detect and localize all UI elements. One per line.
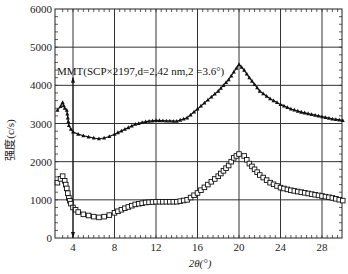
y-tick-label: 6000 [30, 3, 53, 15]
grid-lines [55, 9, 342, 238]
data-point-square [102, 214, 107, 219]
y-axis-tick-labels: 0100020003000400050006000 [30, 3, 53, 244]
data-point-square [86, 213, 91, 218]
arrow-head-up-icon [71, 77, 75, 83]
data-point-triangle [66, 119, 70, 123]
x-tick-label: 24 [275, 241, 287, 253]
x-axis-title: 2θ(°) [189, 257, 212, 270]
data-point-square [237, 152, 242, 157]
data-point-square [66, 191, 71, 196]
data-point-square [91, 214, 96, 219]
data-point-triangle [61, 100, 65, 104]
x-tick-label: 16 [192, 241, 204, 253]
x-tick-label: 8 [112, 241, 118, 253]
data-point-square [107, 213, 112, 218]
y-tick-label: 3000 [30, 118, 53, 130]
data-point-triangle [65, 112, 69, 116]
data-point-triangle [66, 116, 70, 120]
y-axis-title: 强度(c/s) [3, 119, 17, 161]
y-tick-label: 5000 [30, 41, 53, 53]
y-tick-label: 1000 [30, 194, 53, 206]
y-tick-label: 4000 [30, 79, 53, 91]
arrow-head-down-icon [71, 232, 75, 238]
x-axis-tick-labels: 481216202428 [70, 241, 328, 253]
x-tick-label: 20 [234, 241, 246, 253]
data-point-square [81, 212, 86, 217]
x-tick-label: 28 [317, 241, 329, 253]
x-tick-label: 12 [151, 241, 162, 253]
data-point-square [97, 215, 102, 220]
data-point-square [60, 174, 65, 179]
y-tick-label: 2000 [30, 156, 53, 168]
data-point-square [64, 186, 69, 191]
data-point-square [340, 198, 345, 203]
data-point-triangle [237, 62, 241, 66]
annotation-label: MMT(SCP×2197,d=2,42 nm,2 =3.6°) [57, 65, 225, 78]
xrd-chart: MMT(SCP×2197,d=2,42 nm,2 =3.6°) 01000200… [0, 0, 348, 274]
x-tick-label: 4 [70, 241, 76, 253]
data-point-square [76, 210, 81, 215]
y-tick-label: 0 [47, 232, 53, 244]
